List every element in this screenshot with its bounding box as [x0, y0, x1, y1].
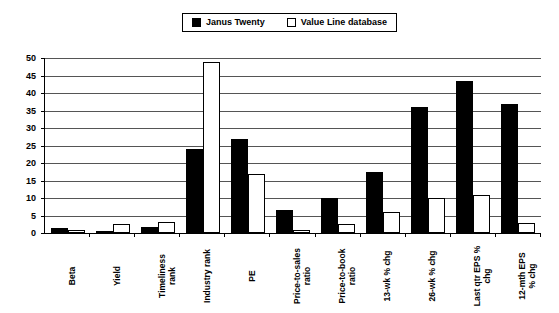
x-axis-tick-labels: BetaYieldTimeliness rankIndustry rankPEP…: [44, 238, 540, 313]
x-label-cell: Beta: [44, 238, 89, 313]
x-label-cell: PE: [224, 238, 269, 313]
bar: [383, 212, 400, 233]
x-tick-mark: [360, 233, 361, 237]
x-tick-label: Last qtr EPS % chg: [472, 240, 492, 312]
bar: [338, 224, 355, 233]
hollow-square-icon: [287, 18, 296, 27]
x-tick-label: Yield: [112, 240, 122, 312]
y-tick-label: 50: [26, 54, 36, 63]
y-tick-label: 15: [26, 176, 36, 185]
legend-entry-janus-twenty: Janus Twenty: [192, 18, 265, 27]
x-tick-label: Beta: [67, 240, 77, 312]
y-tick-label: 5: [31, 211, 36, 220]
bar: [428, 198, 445, 233]
x-tick-mark: [269, 233, 270, 237]
bar-group: [180, 58, 225, 233]
bar: [203, 62, 220, 234]
bar-group: [225, 58, 270, 233]
x-label-cell: Yield: [89, 238, 134, 313]
plot-frame: [44, 58, 541, 234]
bar: [158, 222, 175, 233]
bar: [366, 172, 383, 233]
bar: [96, 231, 113, 233]
bar: [113, 224, 130, 233]
bar: [186, 149, 203, 233]
x-tick-label: PE: [247, 240, 257, 312]
x-tick-mark: [495, 233, 496, 237]
y-tick-label: 0: [31, 229, 36, 238]
legend-label: Janus Twenty: [206, 18, 265, 27]
y-tick-label: 40: [26, 89, 36, 98]
x-tick-label: Industry rank: [202, 240, 212, 312]
bar-group: [316, 58, 361, 233]
bar-group: [135, 58, 180, 233]
x-tick-mark: [179, 233, 180, 237]
y-tick-label: 20: [26, 159, 36, 168]
y-tick-label: 25: [26, 141, 36, 150]
legend-label: Value Line database: [301, 18, 387, 27]
x-label-cell: Industry rank: [179, 238, 224, 313]
x-tick-mark: [89, 233, 90, 237]
bar: [518, 223, 535, 234]
x-label-cell: Price-to-sales ratio: [269, 238, 314, 313]
x-tick-mark: [540, 233, 541, 237]
y-tick-label: 30: [26, 124, 36, 133]
x-label-cell: Price-to-book ratio: [315, 238, 360, 313]
legend-entry-value-line-database: Value Line database: [287, 18, 387, 27]
x-tick-mark: [450, 233, 451, 237]
bar: [231, 139, 248, 234]
bar: [293, 230, 310, 234]
bar: [141, 227, 158, 233]
x-label-cell: Last qtr EPS % chg: [450, 238, 495, 313]
x-label-cell: 26-wk % chg: [405, 238, 450, 313]
bar: [473, 195, 490, 234]
x-tick-label: 12-mth EPS % chg: [517, 240, 537, 312]
bar: [411, 107, 428, 233]
bar-group: [270, 58, 315, 233]
chart-page: { "legend": { "position": "top-center", …: [0, 0, 559, 313]
bar-group: [90, 58, 135, 233]
chart-plot-area: 05101520253035404550 BetaYieldTimeliness…: [0, 48, 559, 313]
chart-legend: Janus Twenty Value Line database: [182, 13, 397, 32]
bar-group: [406, 58, 451, 233]
bar-group: [45, 58, 90, 233]
x-tick-mark: [405, 233, 406, 237]
bar: [68, 230, 85, 234]
x-label-cell: Timeliness rank: [134, 238, 179, 313]
bar: [276, 210, 293, 233]
y-tick-label: 35: [26, 106, 36, 115]
bar: [501, 104, 518, 234]
x-label-cell: 12-mth EPS % chg: [495, 238, 540, 313]
bar: [51, 228, 68, 233]
bar-group: [451, 58, 496, 233]
bar: [321, 198, 338, 233]
x-tick-mark: [134, 233, 135, 237]
x-tick-mark: [315, 233, 316, 237]
bar-groups: [45, 58, 541, 233]
x-tick-label: 13-wk % chg: [382, 240, 392, 312]
bar: [456, 81, 473, 233]
x-tick-label: Price-to-book ratio: [337, 240, 357, 312]
bar: [248, 174, 265, 234]
bar-group: [496, 58, 541, 233]
y-tick-label: 10: [26, 194, 36, 203]
y-axis-tick-labels: 05101520253035404550: [0, 48, 40, 234]
x-tick-label: Price-to-sales ratio: [292, 240, 312, 312]
x-tick-mark: [224, 233, 225, 237]
x-tick-label: Timeliness rank: [157, 240, 177, 312]
y-tick-mark: [41, 233, 45, 234]
y-tick-label: 45: [26, 71, 36, 80]
filled-square-icon: [192, 18, 201, 27]
x-tick-label: 26-wk % chg: [427, 240, 437, 312]
x-label-cell: 13-wk % chg: [360, 238, 405, 313]
bar-group: [361, 58, 406, 233]
